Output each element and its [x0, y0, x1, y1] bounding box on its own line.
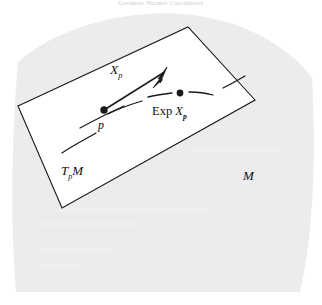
label-tangent-space-manifold: M: [72, 163, 83, 178]
label-exp-prefix: Exp: [152, 104, 175, 118]
label-manifold: M: [243, 168, 254, 184]
label-exp-vector-base: X: [175, 104, 183, 118]
label-exp-vector-subscript: p: [183, 112, 187, 121]
geometry-figure-svg: [0, 0, 322, 305]
label-tangent-vector: Xp: [110, 62, 122, 80]
label-tangent-space: TpM: [61, 163, 83, 181]
label-tangent-vector-subscript: p: [118, 71, 122, 80]
figure-root: Geodesic Normal Coordinates: [0, 0, 322, 305]
label-exponential-map: Exp Xp: [152, 104, 187, 121]
label-exp-vector: Xp: [175, 104, 187, 118]
exp-image-point-dot: [177, 90, 184, 97]
base-point-dot: [100, 106, 107, 113]
label-tangent-vector-base: X: [110, 62, 118, 77]
label-base-point: p: [98, 118, 104, 133]
